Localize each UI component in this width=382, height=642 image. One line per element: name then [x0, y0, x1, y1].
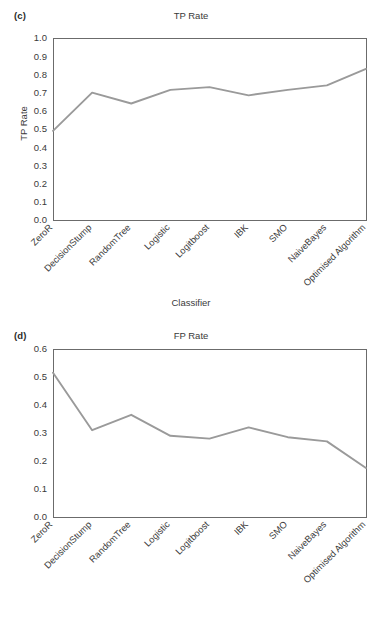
x-axis-tick-label: Logitboost: [174, 519, 212, 557]
y-axis-tick-label: 0.8: [34, 69, 47, 80]
y-axis-tick-label: 0.2: [34, 455, 47, 466]
plot-frame: [54, 39, 367, 221]
y-axis-tick-label: 1.0: [34, 32, 47, 43]
x-axis-tick-label: ZeroR: [29, 519, 55, 545]
y-axis-tick-label: 0.4: [34, 399, 47, 410]
chart-panel-fp-rate: (d) FP Rate FP Rate 0.60.50.40.30.20.10.…: [0, 320, 382, 642]
chart-panel-tp-rate: (c) TP Rate TP Rate 1.00.90.80.70.60.50.…: [0, 0, 382, 320]
y-axis-tick-label: 0.2: [34, 178, 47, 189]
x-axis-tick-label: Logistic: [142, 222, 172, 252]
y-axis-tick-label: 0.9: [34, 51, 47, 62]
y-axis-tick-label: 0.4: [34, 142, 47, 153]
x-axis-tick-label: SMO: [267, 519, 289, 541]
y-axis-tick-label: 0.6: [34, 343, 47, 354]
x-axis-tick-label: Logistic: [142, 519, 172, 549]
y-axis-tick-label: 0.1: [34, 483, 47, 494]
data-series-line: [53, 69, 366, 131]
x-axis-tick-label: SMO: [267, 222, 289, 244]
x-axis-tick-label: IBK: [232, 519, 250, 537]
x-axis-tick-label: RandomTree: [87, 222, 132, 267]
y-axis-tick-label: 0.6: [34, 105, 47, 116]
x-axis-tick-label: ZeroR: [29, 222, 55, 248]
plot-area-fp-rate: 0.60.50.40.30.20.10.0ZeroRDecisionStumpR…: [0, 320, 382, 642]
y-axis-tick-label: 0.3: [34, 427, 47, 438]
y-axis-tick-label: 0.5: [34, 123, 47, 134]
y-axis-tick-label: 0.5: [34, 371, 47, 382]
x-axis-tick-label: IBK: [232, 222, 250, 240]
x-axis-tick-label: NaiveBayes: [286, 519, 328, 561]
x-axis-tick-label: RandomTree: [87, 519, 132, 564]
plot-area-tp-rate: 1.00.90.80.70.60.50.40.30.20.10.0ZeroRDe…: [0, 0, 382, 320]
y-axis-tick-label: 0.7: [34, 87, 47, 98]
x-axis-label-classifier-c: Classifier: [0, 297, 382, 308]
plot-frame: [54, 350, 367, 518]
data-series-line: [53, 373, 366, 468]
y-axis-tick-label: 0.1: [34, 196, 47, 207]
y-axis-tick-label: 0.3: [34, 160, 47, 171]
x-axis-tick-label: Logitboost: [174, 222, 212, 260]
x-axis-tick-label: NaiveBayes: [286, 222, 328, 264]
